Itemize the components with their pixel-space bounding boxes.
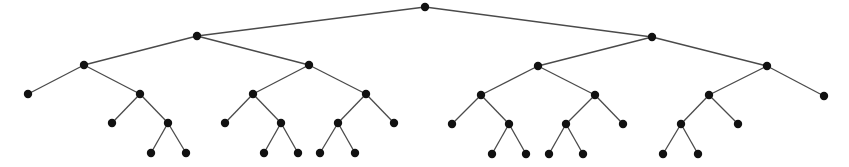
tree-node [193, 32, 201, 40]
tree-node [820, 92, 828, 100]
tree-edge [652, 37, 767, 66]
tree-edge [309, 65, 366, 94]
tree-node [351, 149, 359, 157]
tree-node [619, 120, 627, 128]
tree-node [164, 119, 172, 127]
tree-edge [709, 95, 738, 124]
tree-edge [225, 94, 253, 123]
tree-edge [320, 123, 338, 153]
tree-edge [366, 94, 394, 123]
tree-node [677, 120, 685, 128]
tree-edge [151, 123, 168, 153]
tree-node [763, 62, 771, 70]
tree-node [477, 91, 485, 99]
tree-nodes [24, 3, 828, 158]
tree-edge [663, 124, 681, 154]
tree-node [488, 150, 496, 158]
tree-edge [140, 94, 168, 123]
tree-node [316, 149, 324, 157]
tree-edge [281, 123, 298, 153]
tree-edge [84, 65, 140, 94]
tree-edge [168, 123, 186, 153]
tree-node [334, 119, 342, 127]
tree-node [80, 61, 88, 69]
tree-edge [28, 65, 84, 94]
tree-node [294, 149, 302, 157]
tree-edge [112, 94, 140, 123]
tree-node [362, 90, 370, 98]
tree-edge [338, 123, 355, 153]
tree-edge [595, 95, 623, 124]
tree-edges [28, 7, 824, 154]
tree-edge [425, 7, 652, 37]
tree-edge [538, 37, 652, 66]
tree-node [136, 90, 144, 98]
tree-node [659, 150, 667, 158]
tree-node [260, 149, 268, 157]
tree-node [147, 149, 155, 157]
tree-edge [84, 36, 197, 65]
tree-edge [481, 66, 538, 95]
tree-node [591, 91, 599, 99]
tree-node [648, 33, 656, 41]
tree-node [534, 62, 542, 70]
tree-edge [681, 124, 698, 154]
tree-edge [197, 36, 309, 65]
tree-edge [549, 124, 566, 154]
tree-edge [538, 66, 595, 95]
tree-edge [253, 94, 281, 123]
tree-edge [338, 94, 366, 123]
tree-edge [566, 124, 583, 154]
tree-node [390, 119, 398, 127]
tree-edge [264, 123, 281, 153]
binary-tree-diagram [0, 0, 849, 167]
tree-node [277, 119, 285, 127]
tree-node [522, 150, 530, 158]
tree-node [221, 119, 229, 127]
tree-node [705, 91, 713, 99]
tree-node [249, 90, 257, 98]
tree-node [562, 120, 570, 128]
tree-edge [492, 124, 509, 154]
tree-node [545, 150, 553, 158]
tree-edge [452, 95, 481, 124]
tree-node [579, 150, 587, 158]
tree-edge [709, 66, 767, 95]
tree-edge [681, 95, 709, 124]
tree-node [24, 90, 32, 98]
tree-node [694, 150, 702, 158]
tree-edge [566, 95, 595, 124]
tree-edge [767, 66, 824, 96]
tree-edge [197, 7, 425, 36]
tree-node [182, 149, 190, 157]
tree-node [734, 120, 742, 128]
tree-node [108, 119, 116, 127]
tree-edge [481, 95, 509, 124]
tree-node [448, 120, 456, 128]
tree-node [305, 61, 313, 69]
tree-node [421, 3, 429, 11]
tree-edge [509, 124, 526, 154]
tree-node [505, 120, 513, 128]
tree-edge [253, 65, 309, 94]
